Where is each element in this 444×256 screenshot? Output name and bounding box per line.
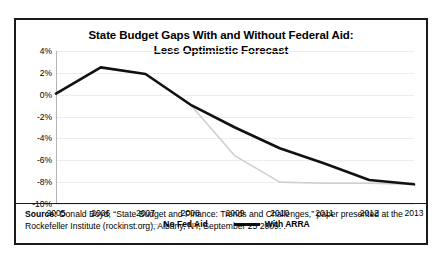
plot-area: 4%2%0%-2%-4%-6%-8%-10%200520062007200820…: [56, 51, 414, 204]
y-axis-tick-label: -8%: [37, 178, 52, 187]
series-lines: [56, 51, 414, 204]
source-body: Donald Boyd, “State Budget and Finance: …: [25, 209, 403, 231]
y-axis-tick-label: 0%: [40, 90, 52, 99]
series-line: [56, 67, 414, 184]
y-axis-tick-label: -6%: [37, 156, 52, 165]
series-line: [56, 67, 414, 184]
y-axis-tick-label: -2%: [37, 112, 52, 121]
source-note: Source: Donald Boyd, “State Budget and F…: [16, 203, 426, 243]
y-axis-tick-label: -4%: [37, 134, 52, 143]
y-axis-tick-label: 4%: [40, 47, 52, 56]
chart-title-line1: State Budget Gaps With and Without Feder…: [16, 28, 426, 43]
source-label: Source:: [25, 209, 57, 219]
chart-figure: State Budget Gaps With and Without Feder…: [14, 18, 428, 245]
y-axis-tick-label: 2%: [40, 69, 52, 78]
source-text: Source: Donald Boyd, “State Budget and F…: [25, 209, 417, 232]
